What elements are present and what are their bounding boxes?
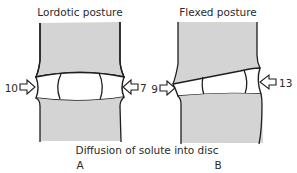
panel-a-left-arrow-icon bbox=[20, 80, 35, 94]
panel-a-title: Lordotic posture bbox=[37, 6, 122, 18]
panel-a-letter: A bbox=[76, 159, 84, 171]
figure-caption: Diffusion of solute into disc bbox=[76, 144, 219, 156]
panel-b-title: Flexed posture bbox=[179, 6, 256, 18]
panel-b-letter: B bbox=[214, 159, 221, 171]
panel-b-lower-vertebra-left-edge bbox=[178, 96, 181, 144]
panel-a-right-value: 7 bbox=[140, 82, 147, 94]
panel-a-right-arrow-icon bbox=[123, 80, 138, 94]
panel-b-right-arrow-icon bbox=[260, 75, 276, 89]
panel-b-right-value: 13 bbox=[279, 77, 292, 89]
panel-b-lower-vertebra bbox=[178, 93, 263, 143]
panel-b-upper-vertebra-right-edge bbox=[257, 22, 260, 68]
panel-a-lower-vertebra bbox=[36, 97, 124, 141]
panel-a-upper-vertebra bbox=[36, 22, 124, 77]
panel-a-left-value: 10 bbox=[5, 82, 18, 94]
panel-a-lower-vertebra-left-edge bbox=[36, 98, 40, 142]
panel-a-lower-vertebra-right-edge bbox=[120, 97, 124, 142]
disc-diffusion-diagram: Lordotic posture 10 7 A Flexed posture bbox=[0, 0, 297, 173]
panel-a-upper-vertebra-right-edge bbox=[120, 22, 124, 77]
panel-b-left-value: 9 bbox=[151, 83, 158, 95]
panel-a-disc bbox=[36, 73, 124, 101]
